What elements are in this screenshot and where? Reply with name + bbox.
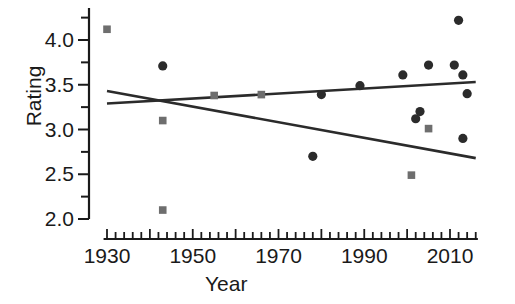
plot-canvas: 2.02.53.03.54.0 19301950197019902010 (0, 0, 515, 304)
data-point-circle (355, 81, 364, 90)
x-tick-label: 1970 (255, 244, 302, 267)
data-point-circle (463, 89, 472, 98)
y-axis: 2.02.53.03.54.0 (45, 8, 89, 230)
data-points (103, 16, 472, 214)
y-tick-label: 3.5 (45, 73, 74, 96)
rising-trend (107, 82, 476, 103)
data-point-circle (458, 134, 467, 143)
data-point-square (103, 25, 111, 33)
y-tick-label: 4.0 (45, 28, 74, 51)
y-tick-label: 2.0 (45, 207, 74, 230)
x-tick-label: 1990 (341, 244, 388, 267)
data-point-square (210, 92, 218, 100)
data-point-square (159, 206, 167, 214)
scatter-plot-figure: Rating Year 2.02.53.03.54.0 193019501970… (0, 0, 515, 304)
x-tick-label: 1930 (84, 244, 131, 267)
data-point-square (159, 117, 167, 125)
data-point-circle (398, 70, 407, 79)
data-point-circle (454, 16, 463, 25)
y-tick-label: 3.0 (45, 118, 74, 141)
data-point-square (258, 91, 266, 99)
data-point-circle (308, 152, 317, 161)
y-tick-label: 2.5 (45, 162, 74, 185)
data-point-square (408, 171, 416, 179)
data-point-circle (317, 90, 326, 99)
data-point-circle (158, 61, 167, 70)
x-axis: 19301950197019902010 (84, 229, 478, 267)
data-point-circle (458, 70, 467, 79)
data-point-circle (424, 60, 433, 69)
data-point-square (425, 125, 433, 133)
x-tick-label: 1950 (169, 244, 216, 267)
x-tick-label: 2010 (427, 244, 474, 267)
data-point-circle (450, 60, 459, 69)
data-point-circle (415, 107, 424, 116)
